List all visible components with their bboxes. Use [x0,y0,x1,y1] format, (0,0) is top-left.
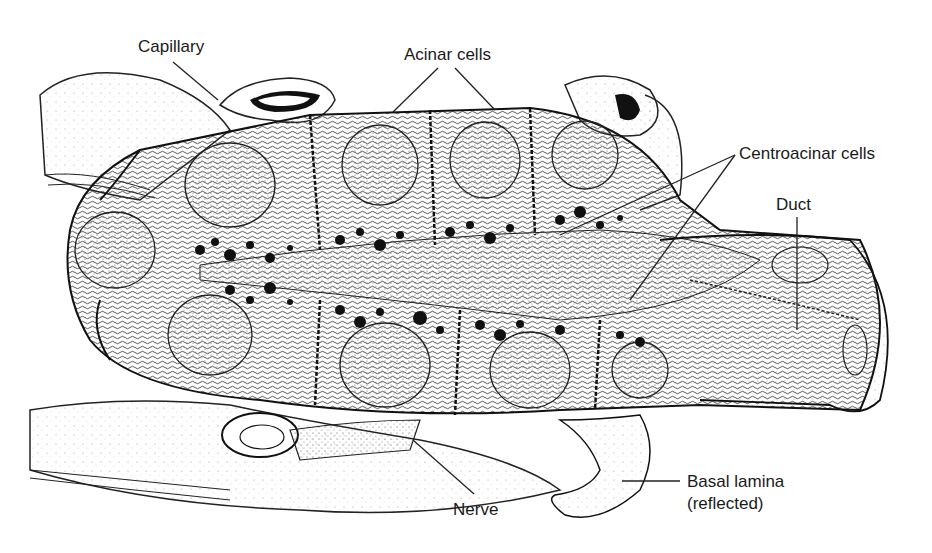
acinar-leader-2 [455,68,495,110]
label-nerve: Nerve [453,500,498,520]
label-centroacinar-cells: Centroacinar cells [739,144,875,164]
label-duct: Duct [776,195,811,215]
label-basal-lamina: Basal lamina [687,472,784,492]
label-basal-lamina-sub: (reflected) [687,494,764,514]
label-acinar-cells: Acinar cells [404,45,491,65]
basal-lamina [552,415,650,517]
acinar-leader-1 [393,68,438,112]
acinus-illustration [0,0,932,553]
diagram-canvas: Capillary Acinar cells Centroacinar cell… [0,0,932,553]
label-capillary: Capillary [138,37,204,57]
capillary-bottom [30,401,560,513]
